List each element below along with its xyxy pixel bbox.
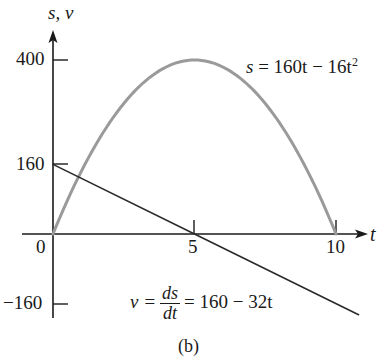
position-equation-lhs: s	[246, 56, 253, 77]
velocity-equation-rhs: = 160 − 32t	[184, 291, 272, 312]
velocity-fraction-denominator: dt	[160, 304, 180, 323]
figure-caption: (b)	[178, 336, 199, 357]
y-tick-label-neg160: −160	[3, 292, 42, 314]
y-tick-label-400: 400	[16, 48, 45, 70]
position-equation-rhs: = 160t − 16t	[258, 56, 352, 77]
y-axis-label: s, v	[48, 2, 73, 24]
chart-figure: s, v t 400 160 0 −160 5 10 s = 160t − 16…	[0, 0, 390, 360]
velocity-equation: v =dsdt= 160 − 32t	[130, 284, 273, 323]
velocity-fraction-numerator: ds	[160, 284, 180, 304]
origin-label: 0	[36, 236, 46, 258]
position-equation: s = 160t − 16t2	[246, 55, 358, 78]
x-axis-label: t	[370, 223, 376, 246]
velocity-fraction: dsdt	[160, 284, 180, 323]
position-equation-exponent: 2	[352, 55, 358, 69]
x-tick-label-5: 5	[188, 236, 198, 258]
y-tick-label-160: 160	[16, 153, 45, 175]
velocity-equation-lhs: v =	[130, 291, 156, 312]
x-tick-label-10: 10	[326, 236, 345, 258]
position-curve	[53, 60, 336, 234]
